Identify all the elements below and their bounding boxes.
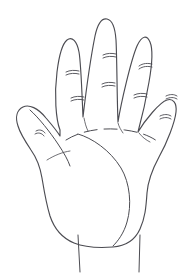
hand-illustration (0, 0, 196, 275)
knuckle-mark (166, 95, 177, 97)
drawing-canvas (0, 0, 196, 275)
wrist-line-right (139, 235, 140, 272)
knuckle-mark (166, 98, 177, 100)
